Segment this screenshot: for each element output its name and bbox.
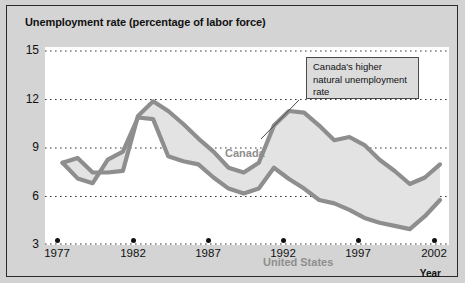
chart-frame: Unemployment rate (percentage of labor f… bbox=[6, 5, 458, 277]
x-axis-label: Year bbox=[420, 268, 441, 279]
y-tick-9: 9 bbox=[13, 140, 39, 154]
x-tick-1982: 1982 bbox=[110, 247, 156, 259]
x-tick-dot-1977 bbox=[55, 238, 60, 243]
x-tick-1977: 1977 bbox=[34, 247, 80, 259]
x-tick-dot-1982 bbox=[131, 238, 136, 243]
y-tick-6: 6 bbox=[13, 189, 39, 203]
x-tick-1987: 1987 bbox=[185, 247, 231, 259]
x-tick-dot-2002 bbox=[432, 238, 437, 243]
chart-title: Unemployment rate (percentage of labor f… bbox=[25, 16, 266, 28]
x-tick-dot-1992 bbox=[281, 238, 286, 243]
series-label-canada: Canada bbox=[225, 147, 265, 159]
x-tick-2002: 2002 bbox=[411, 247, 457, 259]
y-tick-15: 15 bbox=[13, 43, 39, 57]
x-tick-dot-1987 bbox=[206, 238, 211, 243]
annotation-text: Canada's higher natural unemployment rat… bbox=[313, 61, 407, 97]
annotation-callout: Canada's higher natural unemployment rat… bbox=[306, 57, 419, 99]
x-tick-1997: 1997 bbox=[335, 247, 381, 259]
y-tick-12: 12 bbox=[13, 92, 39, 106]
x-tick-dot-1997 bbox=[356, 238, 361, 243]
chart-figure: Unemployment rate (percentage of labor f… bbox=[0, 0, 465, 283]
x-tick-1992: 1992 bbox=[260, 247, 306, 259]
